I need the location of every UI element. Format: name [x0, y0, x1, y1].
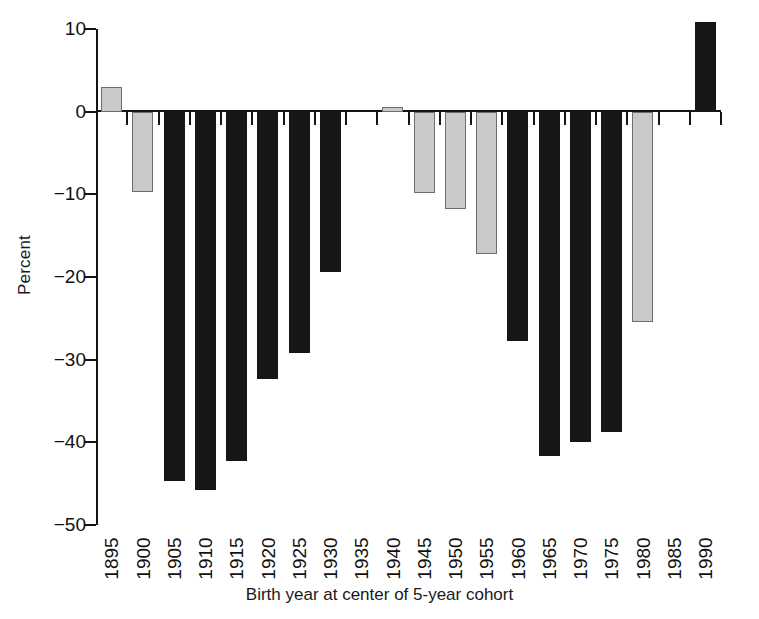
x-axis-tick-label-text: 1990 [696, 537, 715, 579]
x-axis-tick [345, 112, 347, 125]
x-axis-tick [658, 112, 660, 125]
x-axis-tick-label-text: 1955 [477, 537, 496, 579]
y-axis-tick [85, 28, 96, 30]
x-axis-tick [533, 112, 535, 125]
bar [320, 112, 341, 272]
bar [164, 112, 185, 482]
plot-area [96, 20, 721, 525]
y-axis-line [96, 29, 98, 525]
x-axis-tick-label-text: 1925 [290, 537, 309, 579]
y-axis-tick-label: −10 [30, 184, 86, 203]
x-axis-tick [595, 112, 597, 125]
x-axis-tick [470, 112, 472, 125]
x-axis-tick [220, 112, 222, 125]
x-axis-tick-label-text: 1935 [352, 537, 371, 579]
x-axis-tick-label-text: 1930 [321, 537, 340, 579]
x-axis-tick [158, 112, 160, 125]
x-axis-tick-label-text: 1915 [227, 537, 246, 579]
y-axis-tick-label: −20 [30, 267, 86, 286]
y-axis-tick [85, 441, 96, 443]
x-axis-tick-label: 1900 [128, 527, 158, 593]
y-axis-tick [85, 524, 96, 526]
bar [632, 112, 653, 323]
bar [695, 22, 716, 111]
x-axis-tick-label: 1895 [97, 527, 127, 593]
bar [445, 112, 466, 210]
x-axis-tick-label-text: 1910 [196, 537, 215, 579]
x-axis-tick-label-text: 1900 [133, 537, 152, 579]
x-axis-tick [626, 112, 628, 125]
x-axis-tick-label-text: 1985 [665, 537, 684, 579]
x-axis-tick-label: 1915 [222, 527, 252, 593]
y-axis-tick [85, 111, 96, 113]
x-axis-tick-label-text: 1920 [258, 537, 277, 579]
bar [195, 112, 216, 491]
y-axis-tick-labels: 100−10−20−30−40−50 [30, 0, 86, 530]
y-axis-tick [85, 359, 96, 361]
x-axis-tick [376, 112, 378, 125]
x-axis-tick-label-text: 1980 [633, 537, 652, 579]
x-axis-tick-label-text: 1905 [165, 537, 184, 579]
x-axis-tick-label-text: 1950 [446, 537, 465, 579]
x-axis-tick-label: 1965 [534, 527, 564, 593]
bar [476, 112, 497, 254]
x-axis-tick-label: 1980 [628, 527, 658, 593]
x-axis-tick-labels: 1895190019051910191519201925193019351940… [96, 527, 721, 593]
x-axis-tick-label-text: 1960 [508, 537, 527, 579]
x-axis-tick [189, 112, 191, 125]
x-axis-tick-label: 1970 [565, 527, 595, 593]
x-axis-tick [314, 112, 316, 125]
x-axis-tick-label-text: 1975 [602, 537, 621, 579]
bar [289, 112, 310, 353]
bar-chart-figure: Percent 100−10−20−30−40−50 1895190019051… [0, 0, 759, 619]
bar [570, 112, 591, 443]
x-axis-tick-label: 1930 [315, 527, 345, 593]
x-axis-tick-label: 1960 [503, 527, 533, 593]
x-axis-tick-label-text: 1940 [383, 537, 402, 579]
y-axis-tick-label: 10 [30, 19, 86, 38]
y-axis-tick-label: −50 [30, 515, 86, 534]
x-axis-tick-label: 1945 [409, 527, 439, 593]
bar [601, 112, 622, 433]
x-axis-tick [501, 112, 503, 125]
x-axis-tick-label: 1940 [378, 527, 408, 593]
x-axis-tick-label-text: 1895 [102, 537, 121, 579]
x-axis-tick [720, 112, 722, 125]
bar [539, 112, 560, 456]
x-axis-tick [283, 112, 285, 125]
bar [414, 112, 435, 193]
x-axis-tick-label: 1925 [284, 527, 314, 593]
x-axis-tick-label: 1955 [472, 527, 502, 593]
x-axis-title: Birth year at center of 5-year cohort [0, 585, 759, 605]
bar [382, 107, 403, 112]
x-axis-tick-label: 1935 [347, 527, 377, 593]
x-axis-tick-label-text: 1945 [415, 537, 434, 579]
x-axis-tick-label-text: 1970 [571, 537, 590, 579]
x-axis-tick [251, 112, 253, 125]
x-axis-tick-label: 1985 [659, 527, 689, 593]
x-axis-tick [439, 112, 441, 125]
x-axis-tick [564, 112, 566, 125]
x-axis-tick [126, 112, 128, 125]
y-axis-tick-label: −40 [30, 432, 86, 451]
x-axis-tick-label: 1950 [440, 527, 470, 593]
y-axis-tick [85, 276, 96, 278]
bar [132, 112, 153, 192]
y-axis-tick [85, 193, 96, 195]
bar [257, 112, 278, 380]
x-axis-tick [408, 112, 410, 125]
x-axis-tick-label: 1905 [159, 527, 189, 593]
bar [101, 87, 122, 112]
x-axis-tick-label-text: 1965 [540, 537, 559, 579]
y-axis-tick-label: −30 [30, 350, 86, 369]
x-axis-tick-label: 1990 [690, 527, 720, 593]
y-axis-tick-label: 0 [30, 102, 86, 121]
x-axis-tick [689, 112, 691, 125]
x-axis-tick-label: 1910 [190, 527, 220, 593]
bar [226, 112, 247, 461]
x-axis-tick-label: 1975 [597, 527, 627, 593]
bar [507, 112, 528, 341]
x-axis-tick-label: 1920 [253, 527, 283, 593]
